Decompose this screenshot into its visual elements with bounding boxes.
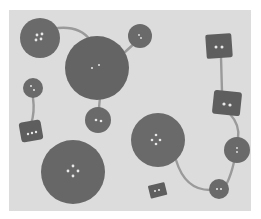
- round-button: [224, 137, 250, 163]
- round-button: [23, 78, 43, 98]
- string: [176, 160, 210, 190]
- round-button: [20, 18, 60, 58]
- square-button: [148, 182, 168, 199]
- square-button: [212, 90, 242, 117]
- round-button: [65, 36, 129, 100]
- string: [221, 57, 222, 92]
- square-button: [18, 119, 43, 143]
- string: [31, 98, 34, 124]
- round-button: [131, 113, 185, 167]
- round-button: [128, 24, 152, 48]
- square-button: [205, 33, 233, 59]
- buttons-illustration: [0, 0, 261, 219]
- string: [230, 114, 238, 138]
- string: [227, 162, 234, 183]
- round-button: [85, 107, 111, 133]
- round-button: [41, 140, 105, 204]
- round-button: [209, 179, 229, 199]
- string: [58, 28, 90, 40]
